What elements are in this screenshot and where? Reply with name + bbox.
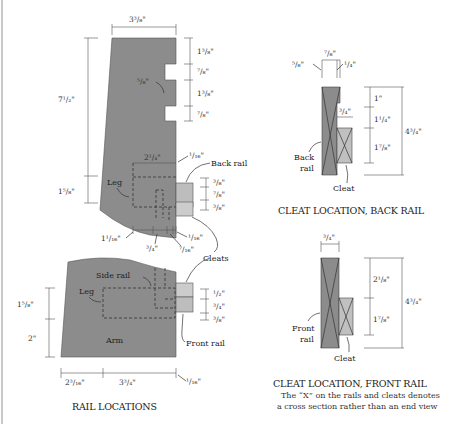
rail-width-dim: 2¹/₄": [144, 153, 161, 162]
front-rail-label-2: rail: [300, 335, 314, 344]
back-total-height: 4³/₄": [405, 127, 422, 136]
notch-dim-1: 1³/₈": [197, 47, 214, 56]
back-left-dim: ⁵/₈": [292, 60, 304, 69]
bottom-dim-4: ¹/₁₆": [188, 233, 203, 242]
arm-view: Side rail Leg Arm Front rail 1⁵/₈" 2" ¹/…: [17, 258, 225, 412]
leg-lower-dim: 1⁵/₈": [58, 187, 75, 196]
cleat-front-caption: CLEAT LOCATION, FRONT RAIL: [273, 378, 428, 389]
back-rail-cleat: [176, 202, 193, 216]
notch-dim-4: ⁷/₈": [197, 110, 209, 119]
front-rail-dim-2: ³/₄": [213, 302, 225, 311]
front-rail-dim-3: ³/₈": [213, 315, 225, 324]
back-rail-label-1: Back: [294, 153, 314, 162]
rail-offset-dim: ¹/₁₆": [189, 151, 204, 160]
leg-label-arm: Leg: [79, 287, 94, 296]
back-rail-dim-1: ³/₈": [213, 178, 225, 187]
cleat-back-view: ⁷/₈" ⁵/₈" ¹/₄" ³/₄" 1" 1¹/₄" 1⁷/₈" 4³/₄"…: [278, 49, 425, 216]
notch-dim-3: 1³/₈": [197, 89, 214, 98]
front-rail-cleat: [176, 283, 193, 297]
rail-locations-caption: RAIL LOCATIONS: [72, 401, 157, 412]
side-rail-label: Side rail: [96, 271, 131, 280]
rail-cleat-diagram: 3³/₈" 1³/₈" ⁷/₈" 1³/₈" ⁷/₈" ⁵/₈" 7¹/₂" 1…: [0, 0, 454, 424]
front-rail-label-1: Front: [292, 324, 315, 333]
bottom-dim-1: 1¹/₁₆": [101, 234, 121, 243]
front-top-width-dim: ³/₄": [323, 233, 335, 242]
front-total-height: 4³/₄": [405, 297, 422, 306]
arm-bottom-dim-2: 3³/₄": [119, 378, 136, 387]
arm-bottom-dim-3: ¹/₁₆": [186, 377, 201, 386]
notch-dim-2: ⁷/₈": [197, 67, 209, 76]
bottom-dim-3: ⁷/₁₆": [179, 245, 194, 254]
front-height-1: 2¹/₈": [373, 275, 390, 284]
back-rail-label: Back rail: [211, 159, 248, 168]
leg-view: 3³/₈" 1³/₈" ⁷/₈" 1³/₈" ⁷/₈" ⁵/₈" 7¹/₂" 1…: [58, 15, 248, 263]
arm-left-dim-2: 2": [28, 334, 36, 343]
cross-section-note-2: a cross section rather than an end view: [277, 402, 438, 411]
back-rail-dim-3: ³/₈": [213, 203, 225, 212]
front-height-2: 1⁷/₈": [373, 315, 390, 324]
front-cleat-label: Cleat: [334, 354, 356, 363]
leg-height-dim: 7¹/₂": [58, 95, 75, 104]
back-top-width-dim: ⁷/₈": [324, 49, 336, 58]
leg-label-top: Leg: [107, 178, 122, 187]
back-right-dim: ¹/₄": [344, 60, 356, 69]
arm-left-dim-1: 1⁵/₈": [17, 300, 34, 309]
front-rail-label: Front rail: [186, 339, 225, 348]
bottom-dim-2: ³/₄": [146, 244, 158, 253]
back-rail-dim-2: ⁷/₈": [213, 190, 225, 199]
arm-bottom-dim-1: 2³/₁₆": [65, 378, 85, 387]
front-rail-dim-1: ¹/₂": [213, 289, 225, 298]
notch-depth-dim: ⁵/₈": [137, 77, 149, 86]
back-height-1: 1": [374, 94, 382, 103]
leg-body: [100, 38, 176, 238]
cleats-label: Cleats: [203, 254, 229, 263]
leg-width-dim: 3³/₈": [129, 15, 146, 24]
back-height-3: 1⁷/₈": [374, 143, 391, 152]
cleat-front-view: ³/₄" 2¹/₈" 1⁷/₈" 4³/₄" Front rail Cleat …: [273, 233, 440, 411]
front-rail-section: [176, 297, 193, 312]
cross-section-note-1: The “X” on the rails and cleats denotes: [281, 391, 440, 400]
back-cleat-label: Cleat: [333, 184, 355, 193]
back-rail-label-2: rail: [300, 164, 314, 173]
back-height-2: 1¹/₄": [374, 115, 391, 124]
arm-label: Arm: [105, 336, 124, 345]
back-cleat-width-dim: ³/₄": [339, 107, 351, 116]
cleat-back-caption: CLEAT LOCATION, BACK RAIL: [278, 205, 425, 216]
